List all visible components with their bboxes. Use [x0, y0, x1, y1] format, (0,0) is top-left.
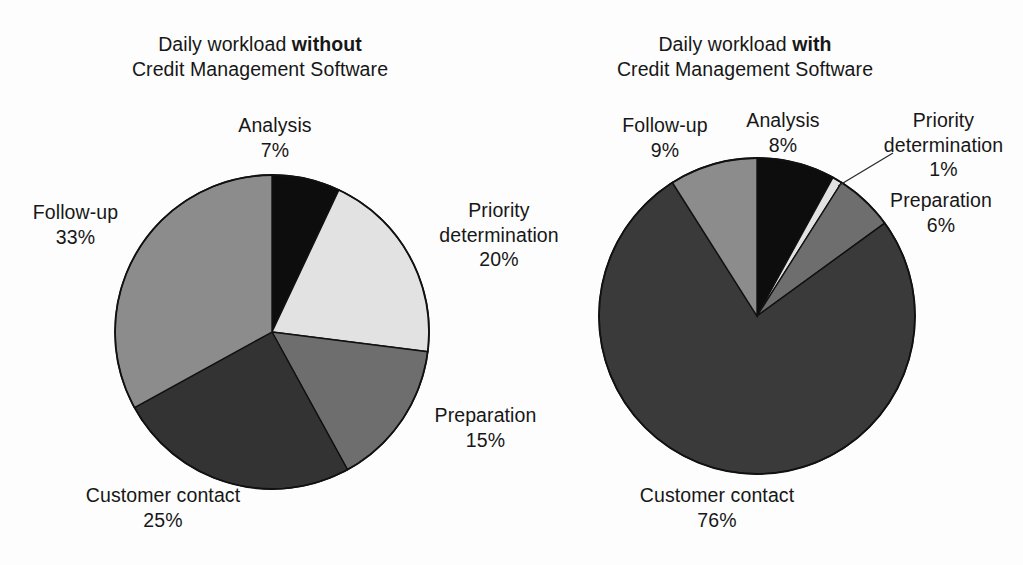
chart-title-left-line1-prefix: Daily workload [158, 33, 292, 55]
right-label-customer-contact: Customer contact 76% [602, 483, 832, 532]
right-label-priority-determination: Priority determination 1% [866, 108, 1021, 182]
chart-title-right-line2: Credit Management Software [617, 58, 873, 80]
chart-panel-right: Daily workload withCredit Management Sof… [512, 0, 1023, 565]
chart-title-right-line1-prefix: Daily workload [658, 33, 792, 55]
chart-title-left-line2: Credit Management Software [132, 58, 388, 80]
left-label-customer-contact: Customer contact 25% [48, 483, 278, 532]
pie-chart-figure: Daily workload withoutCredit Management … [0, 0, 1023, 565]
chart-title-left: Daily workload withoutCredit Management … [60, 32, 460, 82]
right-label-follow-up: Follow-up 9% [600, 113, 730, 162]
right-label-analysis: Analysis 8% [728, 108, 838, 157]
right-label-preparation: Preparation 6% [866, 188, 1016, 237]
chart-title-left-line1-strong: without [292, 33, 362, 55]
chart-panel-left: Daily workload withoutCredit Management … [0, 0, 512, 565]
left-label-follow-up: Follow-up 33% [8, 200, 143, 249]
chart-title-right: Daily workload withCredit Management Sof… [545, 32, 945, 82]
chart-title-right-line1-strong: with [792, 33, 831, 55]
left-label-analysis: Analysis 7% [210, 113, 340, 162]
